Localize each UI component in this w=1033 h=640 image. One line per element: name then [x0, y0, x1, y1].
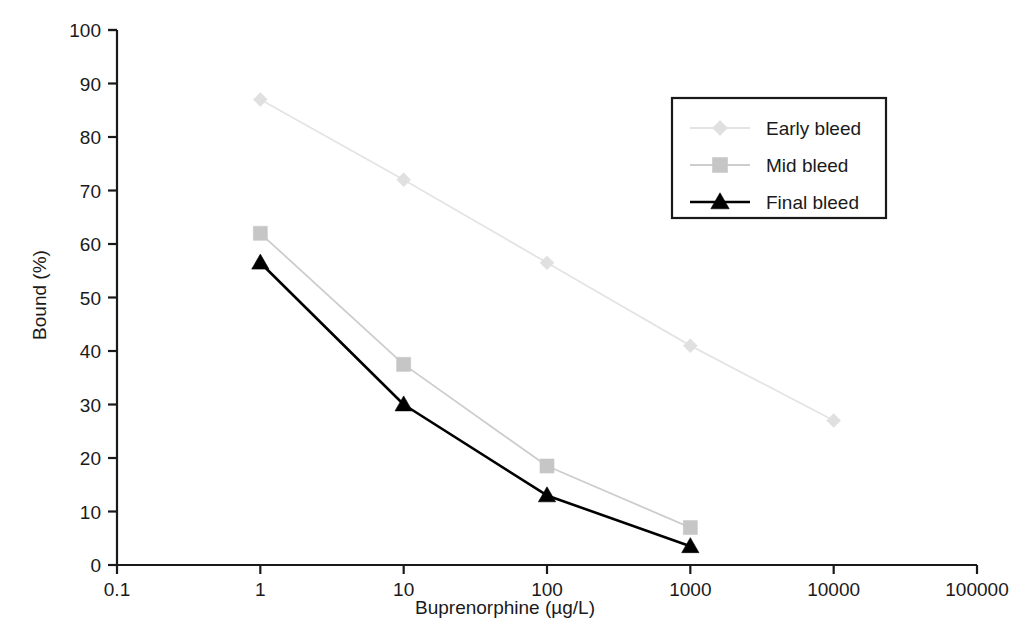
legend-marker-swatch [713, 158, 728, 173]
legend-label: Final bleed [766, 192, 859, 213]
series-marker [397, 357, 411, 371]
y-tick-label: 50 [80, 288, 101, 309]
series-marker [540, 459, 554, 473]
x-tick-label: 1 [255, 579, 266, 600]
legend-label: Mid bleed [766, 155, 848, 176]
x-tick-label: 1000 [669, 579, 711, 600]
y-tick-label: 10 [80, 502, 101, 523]
y-tick-label: 100 [69, 20, 101, 41]
y-tick-label: 40 [80, 341, 101, 362]
chart-figure: 0102030405060708090100 0.111010010001000… [0, 0, 1033, 640]
y-tick-label: 30 [80, 395, 101, 416]
y-tick-label: 70 [80, 181, 101, 202]
y-tick-label: 90 [80, 74, 101, 95]
y-tick-label: 0 [90, 555, 101, 576]
x-tick-label: 0.1 [104, 579, 130, 600]
x-tick-label: 10 [393, 579, 414, 600]
series-marker [253, 226, 267, 240]
line-chart-svg: 0102030405060708090100 0.111010010001000… [0, 0, 1033, 640]
x-tick-label: 10000 [807, 579, 860, 600]
y-tick-label: 80 [80, 127, 101, 148]
chart-background [0, 0, 1033, 640]
y-tick-label: 60 [80, 234, 101, 255]
x-tick-label: 100000 [945, 579, 1008, 600]
y-axis-title: Bound (%) [29, 250, 50, 340]
chart-legend: Early bleedMid bleedFinal bleed [672, 98, 886, 218]
x-axis-title: Buprenorphine (µg/L) [415, 597, 595, 618]
series-marker [683, 521, 697, 535]
y-tick-label: 20 [80, 448, 101, 469]
legend-label: Early bleed [766, 118, 861, 139]
